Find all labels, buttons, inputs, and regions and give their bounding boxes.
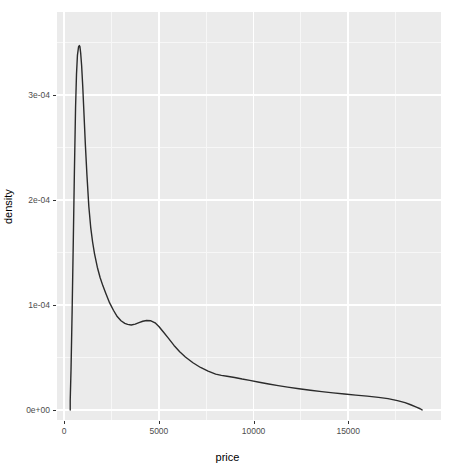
y-tick-mark	[53, 95, 56, 96]
y-tick-label: 2e-04	[28, 196, 50, 205]
major-gridlines	[57, 12, 441, 420]
y-tick-label: 0e+00	[26, 406, 50, 415]
x-tick-mark	[159, 421, 160, 424]
y-tick-label: 3e-04	[28, 91, 50, 100]
x-tick-mark	[348, 421, 349, 424]
plot-canvas	[57, 12, 441, 420]
x-axis-title: price	[0, 452, 455, 463]
x-tick-label: 0	[62, 427, 67, 436]
density-curve	[70, 46, 422, 410]
x-tick-mark	[64, 421, 65, 424]
density-plot: 0e+001e-042e-043e-04 050001000015000 pri…	[0, 0, 455, 474]
y-tick-label: 1e-04	[28, 301, 50, 310]
y-tick-mark	[53, 410, 56, 411]
x-tick-label: 5000	[149, 427, 168, 436]
y-axis-title: density	[3, 208, 14, 224]
x-tick-label: 15000	[336, 427, 360, 436]
x-tick-mark	[254, 421, 255, 424]
minor-gridlines	[57, 12, 441, 420]
x-tick-label: 10000	[242, 427, 266, 436]
plot-panel	[57, 12, 441, 420]
y-tick-mark	[53, 200, 56, 201]
y-tick-mark	[53, 305, 56, 306]
